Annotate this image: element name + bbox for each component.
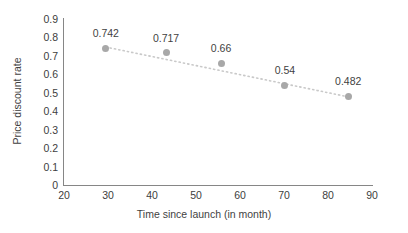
y-tick-0.1: 0.1 bbox=[12, 161, 58, 173]
data-point-label: 0.742 bbox=[93, 27, 119, 39]
y-tick-0.2: 0.2 bbox=[12, 142, 58, 154]
x-axis-line bbox=[64, 185, 373, 186]
data-point bbox=[345, 93, 352, 100]
y-axis-line bbox=[63, 18, 64, 186]
x-tick-80: 80 bbox=[308, 189, 348, 201]
x-axis-title: Time since launch (in month) bbox=[0, 208, 408, 220]
x-tick-70: 70 bbox=[264, 189, 304, 201]
y-tick-0.8: 0.8 bbox=[12, 31, 58, 43]
price-discount-scatter-chart: Price discount rate Time since launch (i… bbox=[0, 0, 408, 233]
y-tick-0.6: 0.6 bbox=[12, 68, 58, 80]
x-tick-30: 30 bbox=[88, 189, 128, 201]
data-point-label: 0.66 bbox=[211, 42, 231, 54]
x-tick-20: 20 bbox=[44, 189, 84, 201]
data-point-label: 0.482 bbox=[335, 75, 361, 87]
y-tick-0.4: 0.4 bbox=[12, 105, 58, 117]
x-tick-40: 40 bbox=[132, 189, 172, 201]
x-tick-60: 60 bbox=[220, 189, 260, 201]
y-tick-0.7: 0.7 bbox=[12, 50, 58, 62]
data-point bbox=[102, 45, 109, 52]
x-tick-90: 90 bbox=[352, 189, 392, 201]
data-point-label: 0.717 bbox=[153, 32, 179, 44]
data-point bbox=[163, 49, 170, 56]
y-tick-0.5: 0.5 bbox=[12, 87, 58, 99]
x-tick-50: 50 bbox=[176, 189, 216, 201]
data-point bbox=[281, 82, 288, 89]
y-tick-0.3: 0.3 bbox=[12, 124, 58, 136]
data-point bbox=[218, 60, 225, 67]
data-point-label: 0.54 bbox=[275, 64, 295, 76]
y-tick-0.9: 0.9 bbox=[12, 13, 58, 25]
